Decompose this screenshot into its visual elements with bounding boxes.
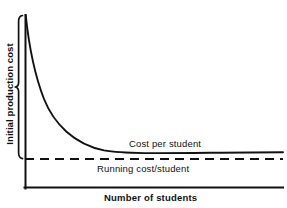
cost-per-student-curve <box>26 15 283 153</box>
y-axis-label: Initial production cost <box>2 34 18 154</box>
running-cost-annotation: Running cost/student <box>97 164 189 174</box>
x-axis-label: Number of students <box>104 193 197 203</box>
y-axis-label-text: Initial production cost <box>5 43 15 145</box>
cost-per-student-chart: Initial production cost Cost per student… <box>0 0 287 208</box>
chart-plot-area <box>0 0 287 208</box>
cost-per-student-annotation: Cost per student <box>129 139 201 149</box>
